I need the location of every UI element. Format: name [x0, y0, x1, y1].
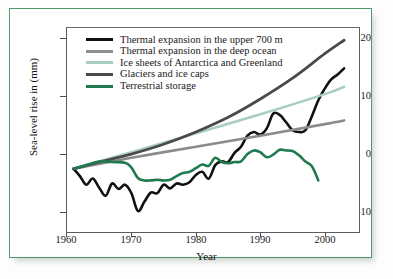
x-axis-label: Year [10, 250, 393, 262]
legend-item: Thermal expansion in the deep ocean [86, 46, 336, 58]
x-tick-label-1960: 1960 [46, 235, 86, 246]
legend-swatch-icon [86, 73, 113, 76]
chart-legend: Thermal expansion in the upper 700 m The… [86, 34, 336, 92]
legend-label: Glaciers and ice caps [120, 69, 209, 80]
legend-swatch-icon [86, 85, 113, 88]
legend-item: Terrestrial storage [86, 80, 336, 92]
x-tick-label-1990: 1990 [240, 235, 280, 246]
legend-label: Thermal expansion in the deep ocean [120, 46, 277, 57]
x-tick-label-1980: 1980 [176, 235, 216, 246]
legend-label: Ice sheets of Antarctica and Greenland [120, 58, 282, 69]
legend-item: Ice sheets of Antarctica and Greenland [86, 57, 336, 69]
legend-item: Thermal expansion in the upper 700 m [86, 34, 336, 46]
x-tick-label-2000: 2000 [305, 235, 345, 246]
legend-item: Glaciers and ice caps [86, 69, 336, 81]
legend-label: Thermal expansion in the upper 700 m [120, 35, 283, 46]
legend-swatch-icon [86, 61, 113, 64]
legend-swatch-icon [86, 38, 113, 41]
chart-page: 20 10 0 -10 1960 1970 1980 1990 2000 Yea… [0, 0, 393, 279]
y-axis-label: Sea-level rise in (mm) [27, 37, 39, 177]
legend-swatch-icon [86, 50, 113, 53]
decorative-frame: 20 10 0 -10 1960 1970 1980 1990 2000 Yea… [9, 8, 372, 258]
legend-label: Terrestrial storage [120, 81, 196, 92]
x-tick-label-1970: 1970 [111, 235, 151, 246]
